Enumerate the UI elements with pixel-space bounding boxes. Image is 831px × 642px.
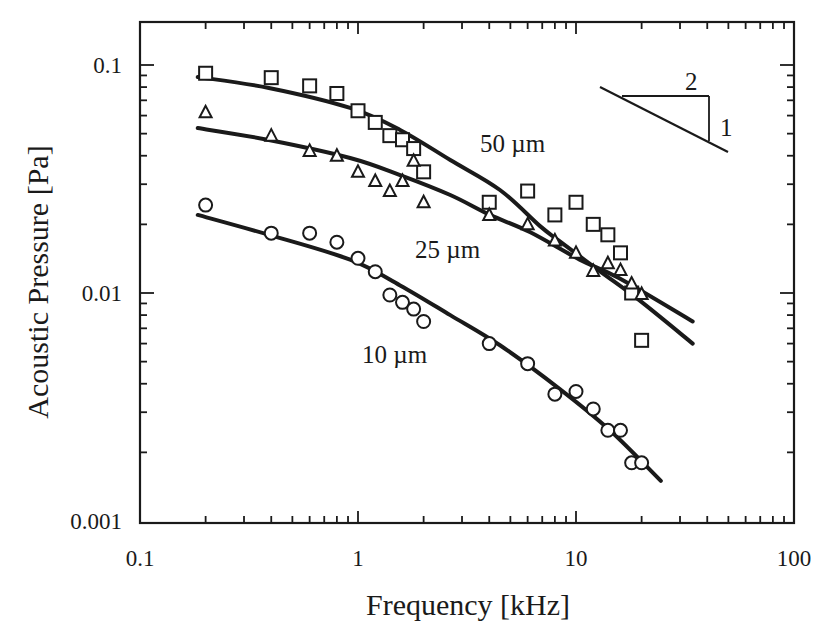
series-label: 10 µm — [362, 341, 428, 368]
y-axis-title: Acoustic Pressure [Pa] — [21, 145, 54, 418]
fit-curve — [198, 77, 693, 344]
x-tick-label: 10 — [565, 546, 588, 571]
marker-square — [265, 71, 278, 84]
marker-circle — [417, 315, 430, 328]
marker-triangle — [265, 129, 277, 141]
marker-circle — [548, 388, 561, 401]
x-axis-title: Frequency [kHz] — [366, 588, 570, 621]
y-tick-label: 0.001 — [70, 509, 122, 534]
slope-run-label: 2 — [685, 68, 698, 95]
x-tick-label: 1 — [352, 546, 364, 571]
marker-circle — [570, 385, 583, 398]
y-tick-label: 0.1 — [93, 53, 122, 78]
marker-circle — [587, 402, 600, 415]
slope-triangle: 2 1 — [600, 68, 733, 152]
marker-circle — [614, 424, 627, 437]
axis-ticks — [140, 22, 794, 523]
marker-square — [330, 87, 343, 100]
marker-triangle — [418, 196, 430, 208]
marker-circle — [483, 337, 496, 350]
x-tick-label: 0.1 — [126, 546, 155, 571]
marker-triangle — [200, 106, 212, 118]
marker-square — [417, 165, 430, 178]
slope-rise-label: 1 — [720, 114, 733, 141]
series-label: 25 µm — [415, 236, 481, 263]
y-tick-label: 0.01 — [82, 281, 122, 306]
plot-border — [140, 22, 794, 523]
marker-triangle — [369, 174, 381, 186]
series-labels: 50 µm25 µm10 µm — [362, 130, 546, 368]
marker-circle — [601, 424, 614, 437]
marker-square — [369, 116, 382, 129]
marker-square — [199, 67, 212, 80]
marker-circle — [265, 227, 278, 240]
marker-square — [601, 228, 614, 241]
marker-circle — [330, 236, 343, 249]
marker-triangle — [352, 165, 364, 177]
chart-canvas: 0.11101000.0010.010.1 50 µm25 µm10 µm 2 … — [0, 0, 831, 642]
marker-triangle — [384, 185, 396, 197]
marker-square — [635, 334, 648, 347]
marker-square — [548, 208, 561, 221]
marker-square — [303, 79, 316, 92]
chart: 0.11101000.0010.010.1 50 µm25 µm10 µm 2 … — [0, 0, 831, 642]
marker-square — [570, 196, 583, 209]
x-tick-label: 100 — [777, 546, 812, 571]
series-label: 50 µm — [480, 130, 546, 157]
marker-circle — [369, 265, 382, 278]
marker-triangle — [602, 257, 614, 269]
marker-circle — [521, 357, 534, 370]
marker-square — [614, 246, 627, 259]
marker-circle — [303, 227, 316, 240]
marker-circle — [199, 199, 212, 212]
marker-square — [383, 129, 396, 142]
marker-square — [521, 185, 534, 198]
marker-circle — [352, 252, 365, 265]
tick-labels: 0.11101000.0010.010.1 — [70, 53, 811, 571]
data-markers — [199, 67, 648, 470]
plot-frame — [140, 22, 794, 523]
marker-circle — [383, 289, 396, 302]
marker-square — [587, 218, 600, 231]
marker-triangle — [614, 264, 626, 276]
marker-square — [352, 104, 365, 117]
marker-circle — [407, 303, 420, 316]
marker-circle — [635, 456, 648, 469]
